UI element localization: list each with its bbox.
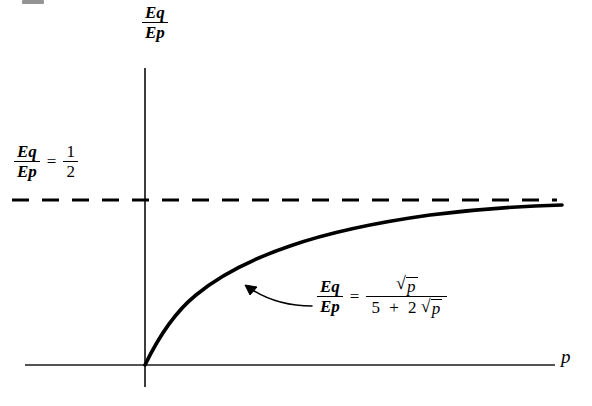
asymptote-rhs-denominator: 2	[63, 161, 78, 180]
asymptote-rhs-numerator: 1	[63, 143, 78, 161]
curve-eq-lhs-numerator: Eq	[317, 278, 343, 296]
curve-eq-rhs-numerator: √ p	[391, 275, 422, 296]
callout-arrow-line	[251, 289, 312, 306]
asymptote-lhs-fraction: Eq Ep	[14, 143, 40, 180]
radicand-p-denominator: p	[431, 299, 443, 317]
asymptote-equals-sign: =	[47, 153, 57, 170]
y-axis-denominator: Ep	[142, 22, 168, 41]
sqrt-p-numerator-radical: √ p	[396, 275, 417, 295]
curve-equation-label: Eq Ep = √ p 5 + 2 √ p	[315, 275, 449, 317]
y-axis-numerator: Eq	[142, 4, 168, 22]
curve-eq-lhs-denominator: Ep	[317, 296, 343, 315]
curve-eq-rhs-denominator: 5 + 2 √ p	[366, 296, 447, 318]
y-axis-label: Eq Ep	[140, 4, 170, 41]
radical-sign-icon: √	[396, 274, 406, 294]
callout-arrow-head	[245, 285, 257, 295]
x-axis-label: p	[561, 347, 571, 366]
y-axis-fraction: Eq Ep	[142, 4, 168, 41]
curve-eq-equals-sign: =	[350, 288, 360, 305]
asymptote-label: Eq Ep = 1 2	[12, 143, 80, 180]
denominator-plus-sign: +	[389, 298, 399, 317]
asymptote-rhs-fraction: 1 2	[63, 143, 78, 180]
denominator-coefficient-2: 2	[408, 298, 417, 317]
figure-container: Eq Ep Eq Ep = 1 2 Eq Ep =	[0, 0, 592, 406]
asymptote-lhs-numerator: Eq	[14, 143, 40, 161]
radical-sign-icon-denominator: √	[421, 297, 431, 317]
radicand-p-numerator: p	[406, 277, 418, 295]
denominator-coefficient-5: 5	[371, 298, 380, 317]
plot-area	[0, 0, 592, 406]
curve-eq-rhs-fraction: √ p 5 + 2 √ p	[366, 275, 447, 317]
curve-eq-lhs-fraction: Eq Ep	[317, 278, 343, 315]
asymptote-lhs-denominator: Ep	[14, 161, 40, 180]
sqrt-p-denominator-radical: √ p	[421, 298, 442, 318]
